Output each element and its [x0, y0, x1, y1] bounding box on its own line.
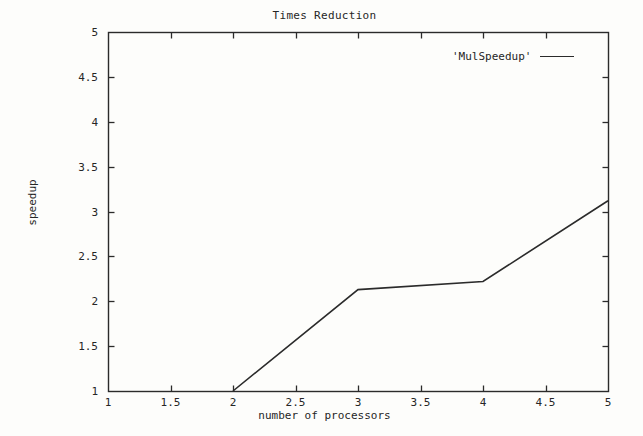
y-tick-label: 3 — [46, 205, 98, 218]
x-tick-label: 1.5 — [161, 396, 181, 409]
y-axis-label: speedup — [26, 153, 39, 253]
y-tick-label: 1 — [46, 385, 98, 398]
x-tick-label: 1 — [105, 396, 112, 409]
data-series-lines — [233, 201, 608, 391]
y-tick-label: 2.5 — [46, 250, 98, 263]
x-axis-label-text: number of processors — [258, 409, 390, 422]
x-tick-label: 5 — [605, 396, 612, 409]
x-tick-label: 2.5 — [286, 396, 306, 409]
y-tick-label: 2 — [46, 295, 98, 308]
x-tick-label: 4.5 — [536, 396, 556, 409]
legend-entry-label: 'MulSpeedup' — [452, 50, 531, 63]
x-tick-label: 3.5 — [411, 396, 431, 409]
x-tick-label: 3 — [355, 396, 362, 409]
x-tick-label: 4 — [480, 396, 487, 409]
legend-line-swatch — [540, 56, 574, 57]
x-axis-label: number of processors — [0, 409, 643, 422]
plot-area-svg — [0, 0, 643, 436]
y-tick-label: 5 — [46, 26, 98, 39]
y-tick-label: 1.5 — [46, 340, 98, 353]
series-line — [233, 201, 608, 391]
plot-frame — [109, 33, 609, 392]
y-tick-label: 3.5 — [46, 160, 98, 173]
axis-ticks — [109, 33, 609, 392]
y-tick-label: 4.5 — [46, 70, 98, 83]
y-tick-label: 4 — [46, 115, 98, 128]
chart-legend: 'MulSpeedup' — [452, 50, 574, 63]
x-tick-label: 2 — [230, 396, 237, 409]
chart-container: Times Reduction 11.522.533.544.55 11.522… — [0, 0, 643, 436]
